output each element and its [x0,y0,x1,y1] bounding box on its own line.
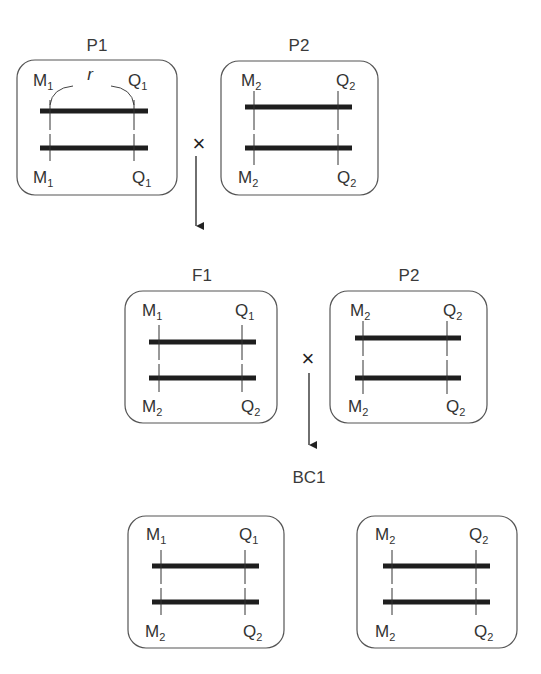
qtl-label-bottom-right: Q1 [132,168,151,189]
recombination-label: r [87,65,94,84]
individual-bc1-homozygous: M2 Q2 M2 Q2 [357,516,517,648]
marker-label-bottom-left: M2 [348,397,368,418]
marker-label-top-left: M1 [33,71,53,92]
qtl-label-bottom-right: Q2 [446,397,465,418]
individual-title: P2 [399,266,420,285]
marker-label-top-left: M2 [241,71,261,92]
qtl-label-top-right: Q2 [443,301,462,322]
individual-p2: P2 M2 Q2 M2 Q2 [221,36,378,195]
generation-title-bc1: BC1 [292,468,325,487]
qtl-label-bottom-right: Q2 [337,168,356,189]
individual-title: P2 [289,36,310,55]
genetic-cross-diagram: P1 M1 Q1 r M1 Q1 × P2 M2 Q2 M2 Q2 F1 M [0,0,541,674]
qtl-label-top-right: Q2 [469,525,488,546]
marker-label-top-left: M1 [142,301,162,322]
qtl-label-top-right: Q1 [128,71,147,92]
cross-symbol: × [193,131,206,156]
individual-title: P1 [87,36,108,55]
marker-label-top-left: M2 [375,525,395,546]
qtl-label-top-right: Q1 [235,301,254,322]
marker-label-bottom-left: M1 [33,168,53,189]
individual-f1: F1 M1 Q1 M2 Q2 [125,266,277,423]
recombination-arc-left [50,86,73,105]
marker-label-top-left: M2 [350,301,370,322]
qtl-label-bottom-right: Q2 [243,622,262,643]
marker-label-bottom-left: M2 [145,622,165,643]
marker-label-top-left: M1 [146,525,166,546]
individual-title: F1 [192,266,212,285]
cross-symbol: × [302,346,315,371]
individual-bc1-heterozygous: M1 Q1 M2 Q2 [128,516,284,648]
individual-p1: P1 M1 Q1 r M1 Q1 [17,36,177,195]
individual-p2-backcross-parent: P2 M2 Q2 M2 Q2 [330,266,487,423]
marker-label-bottom-left: M2 [238,168,258,189]
qtl-label-bottom-right: Q2 [241,397,260,418]
marker-label-bottom-left: M2 [375,622,395,643]
qtl-label-bottom-right: Q2 [474,622,493,643]
qtl-label-top-right: Q2 [336,71,355,92]
marker-label-bottom-left: M2 [142,397,162,418]
qtl-label-top-right: Q1 [239,525,258,546]
